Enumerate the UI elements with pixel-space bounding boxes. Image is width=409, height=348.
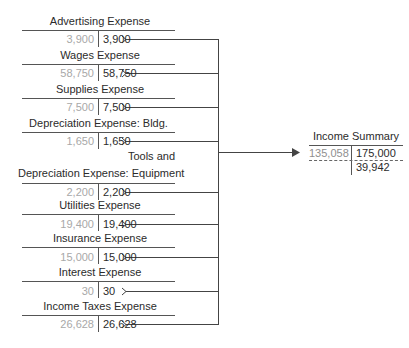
account-title: Advertising Expense (24, 15, 176, 27)
debit-value: 2,200 (20, 186, 94, 198)
credit-value: 7,500 (103, 101, 131, 113)
credit-value: 175,000 (356, 147, 396, 159)
account-title: Wages Expense (24, 49, 176, 61)
account-title: Depreciation Expense: Equipment (18, 167, 176, 179)
credit-value: 58,750 (103, 67, 137, 79)
account-title: Income Taxes Expense (24, 300, 176, 312)
credit-value: 30 (103, 285, 115, 297)
t-account-divider (98, 132, 99, 149)
credit-value: 3,900 (103, 33, 131, 45)
t-account-divider (98, 214, 99, 231)
credit-value: 19,400 (103, 218, 137, 230)
credit-value: 1,650 (103, 135, 131, 147)
arrow-head-icon (292, 148, 300, 157)
t-account-divider (98, 315, 99, 332)
account-title: Utilities Expense (24, 199, 176, 211)
account-title-line1: Tools and (22, 150, 175, 162)
account-title: Income Summary (308, 130, 404, 142)
t-account-divider (98, 30, 99, 47)
debit-value: 7,500 (20, 101, 94, 113)
account-title: Depreciation Expense: Bldg. (22, 117, 175, 129)
debit-value: 30 (20, 285, 94, 297)
account-title: Supplies Expense (24, 83, 176, 95)
debit-value: 58,750 (20, 67, 94, 79)
credit-value: 15,000 (103, 251, 137, 263)
t-account-divider (98, 281, 99, 298)
t-account-divider (98, 98, 99, 115)
t-account-divider (98, 64, 99, 81)
debit-value: 15,000 (20, 251, 94, 263)
debit-value: 1,650 (20, 135, 94, 147)
debit-value: 26,628 (20, 318, 94, 330)
balance-value: 39,942 (356, 161, 390, 173)
debit-value: 135,058 (309, 147, 349, 159)
credit-value: 26,628 (103, 318, 137, 330)
t-account-rule (309, 145, 403, 146)
account-title: Interest Expense (24, 266, 176, 278)
credit-value: 2,200 (103, 186, 131, 198)
debit-value: 19,400 (20, 218, 94, 230)
t-account-divider (98, 183, 99, 200)
t-account-divider (98, 247, 99, 264)
debit-value: 3,900 (20, 33, 94, 45)
account-title: Insurance Expense (24, 232, 176, 244)
